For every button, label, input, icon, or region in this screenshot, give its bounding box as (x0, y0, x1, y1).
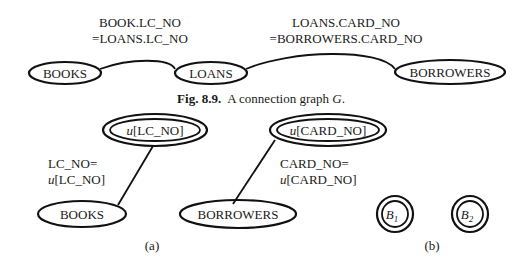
node-books-label: BOOKS (43, 66, 87, 81)
caption-text: A connection graph (227, 91, 332, 106)
edge-label-books-loans-line1: BOOK.LC_NO (99, 15, 181, 30)
caption-prefix: Fig. 8.9. (177, 91, 221, 106)
relation-node-borrowers-label: BORROWERS (198, 207, 279, 222)
figure-caption: Fig. 8.9.A connection graph G. (177, 91, 345, 106)
node-b1-label: B1 (386, 207, 398, 224)
edge-ucardno-borrowers (233, 140, 275, 204)
edge-label-books-loans-line2: =LOANS.LC_NO (92, 31, 188, 46)
edge-label-lcno-line1: LC_NO= (48, 156, 97, 171)
edge-books-loans (100, 61, 175, 69)
node-borrowers-label: BORROWERS (410, 65, 491, 80)
connection-graph-figure: BOOK.LC_NO =LOANS.LC_NO LOANS.CARD_NO =B… (0, 0, 522, 265)
caption-suffix: . (342, 91, 345, 106)
subfigure-b-label: (b) (424, 238, 439, 253)
node-loans-label: LOANS (189, 66, 232, 81)
relation-node-books-label: BOOKS (60, 207, 104, 222)
tuple-node-lcno-label: u[LC_NO] (126, 123, 183, 138)
edge-label-cardno-line1: CARD_NO= (280, 156, 349, 171)
edge-loans-borrowers (246, 54, 395, 69)
edge-label-loans-borrowers-line2: =BORROWERS.CARD_NO (270, 31, 423, 46)
tuple-node-cardno-label: u[CARD_NO] (290, 123, 367, 138)
edge-label-cardno-line2: u[CARD_NO] (280, 172, 357, 187)
subfigure-a-label: (a) (145, 238, 159, 253)
edge-label-lcno-line2: u[LC_NO] (48, 172, 105, 187)
edge-ulcno-books (118, 146, 153, 205)
edge-label-loans-borrowers-line1: LOANS.CARD_NO (292, 15, 400, 30)
node-b2-label: B2 (461, 207, 474, 224)
